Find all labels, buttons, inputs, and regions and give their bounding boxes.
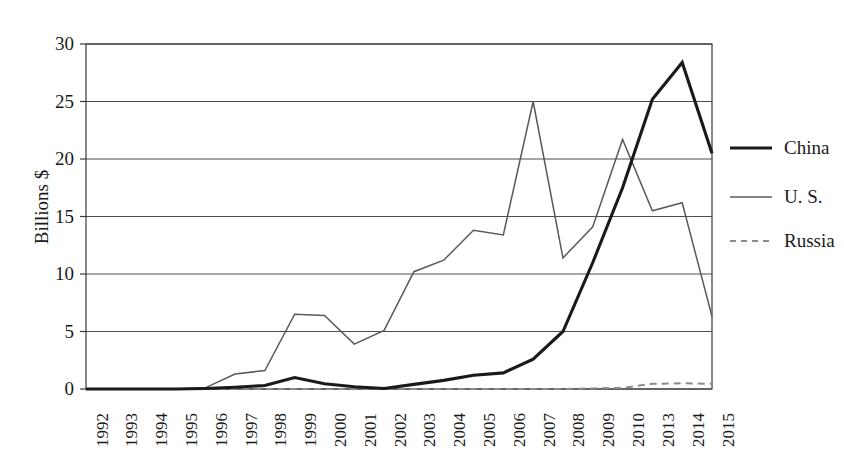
x-tick-label: 1997: [242, 413, 262, 447]
x-tick-label: 2013: [659, 413, 679, 447]
legend-item-china[interactable]: China: [730, 136, 829, 160]
x-tick-label: 2007: [540, 413, 560, 447]
x-tick-label: 2004: [450, 413, 470, 447]
x-tick-label: 2002: [391, 413, 411, 447]
y-tick-marks: [80, 44, 86, 389]
x-tick-label: 2008: [569, 413, 589, 447]
x-tick-label: 1994: [152, 413, 172, 447]
y-tick-label: 0: [34, 379, 74, 398]
y-tick-label: 15: [34, 207, 74, 226]
x-tick-label: 2015: [719, 413, 739, 447]
x-tick-label: 1995: [182, 413, 202, 447]
x-tick-label: 1996: [212, 413, 232, 447]
x-tick-label: 2010: [629, 413, 649, 447]
y-tick-label: 25: [34, 92, 74, 111]
x-tick-label: 1999: [301, 413, 321, 447]
y-tick-label: 5: [34, 322, 74, 341]
x-tick-label: 1992: [93, 413, 113, 447]
y-tick-label: 30: [34, 34, 74, 53]
legend-label: U. S.: [784, 186, 823, 208]
x-tick-label: 2003: [420, 413, 440, 447]
legend-label: China: [784, 137, 829, 159]
y-tick-label: 10: [34, 264, 74, 283]
x-tick-label: 2006: [510, 413, 530, 447]
legend-line-solid-gray: [730, 190, 772, 204]
line-chart: Billions $ 302520151050 1992199319941995…: [0, 0, 844, 466]
x-tick-label: 2014: [689, 413, 709, 447]
legend-line-dashed-gray: [730, 234, 772, 248]
legend-item-russia[interactable]: Russia: [730, 229, 835, 253]
x-tick-label: 1993: [122, 413, 142, 447]
plot-canvas: [0, 0, 844, 466]
x-tick-label: 2000: [331, 413, 351, 447]
x-tick-label: 1998: [271, 413, 291, 447]
legend-item-us[interactable]: U. S.: [730, 185, 823, 209]
x-tick-label: 2001: [361, 413, 381, 447]
x-tick-label: 2005: [480, 413, 500, 447]
legend-line-solid-black: [730, 141, 772, 155]
y-tick-label: 20: [34, 149, 74, 168]
legend-label: Russia: [784, 230, 835, 252]
x-tick-label: 2009: [599, 413, 619, 447]
